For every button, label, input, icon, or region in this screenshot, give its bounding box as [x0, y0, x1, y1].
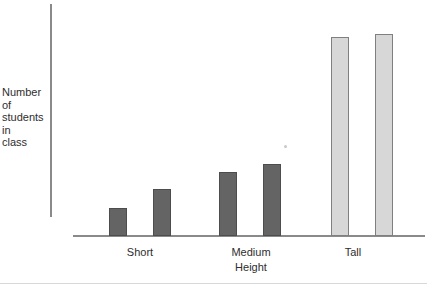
category-label-short: Short [127, 246, 153, 258]
bar-medium-right [263, 164, 281, 236]
y-axis-label: Number of students in class [2, 86, 44, 149]
y-axis-line [50, 4, 52, 217]
bar-short-left [109, 208, 127, 236]
bar-medium-left [219, 172, 237, 236]
category-label-tall: Tall [345, 246, 362, 258]
bar-tall-left [331, 37, 349, 236]
x-axis-title: Height [235, 261, 267, 273]
category-label-medium: Medium [231, 246, 270, 258]
bar-short-right [153, 189, 171, 236]
page-edge-line [0, 283, 427, 284]
chart-figure: Number of students in class Short Medium… [0, 0, 427, 288]
bar-tall-right [375, 34, 393, 236]
scan-artifact-speck [284, 145, 287, 148]
